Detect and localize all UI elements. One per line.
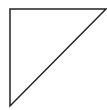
diagram-canvas — [0, 0, 107, 110]
right-triangle-shape — [10, 9, 106, 106]
